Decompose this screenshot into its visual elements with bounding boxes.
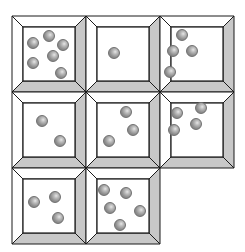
ball-icon xyxy=(27,37,39,49)
ball-icon xyxy=(190,118,202,130)
ball-icon xyxy=(108,47,120,59)
ball-icon xyxy=(103,135,115,147)
bevel-frame xyxy=(12,92,86,168)
ball-icon xyxy=(134,205,146,217)
ball-icon xyxy=(104,202,116,214)
box-r1-c1 xyxy=(86,92,160,168)
bevel-frame xyxy=(86,168,160,244)
ball-icon xyxy=(52,212,64,224)
ball-icon xyxy=(195,102,207,114)
ball-icon xyxy=(168,124,180,136)
ball-icon xyxy=(57,39,69,51)
ball-icon xyxy=(49,191,61,203)
bevel-frame xyxy=(12,168,86,244)
ball-icon xyxy=(186,45,198,57)
ball-icon xyxy=(43,30,55,42)
box-r2-c1 xyxy=(86,168,160,244)
ball-icon xyxy=(98,184,110,196)
ball-icon xyxy=(120,187,132,199)
ball-icon xyxy=(54,135,66,147)
ball-icon xyxy=(120,106,132,118)
ball-icon xyxy=(167,45,179,57)
box-r0-c1 xyxy=(86,16,160,92)
box-r0-c0 xyxy=(12,16,86,92)
ball-icon xyxy=(36,115,48,127)
ball-icon xyxy=(27,57,39,69)
ball-icon xyxy=(171,107,183,119)
box-r2-c0 xyxy=(12,168,86,244)
box-r0-c2 xyxy=(160,16,234,92)
ball-icon xyxy=(176,29,188,41)
ball-icon xyxy=(47,50,59,62)
box-r1-c0 xyxy=(12,92,86,168)
ball-icon xyxy=(55,67,67,79)
bevel-frame xyxy=(86,16,160,92)
box-r1-c2 xyxy=(160,92,234,168)
ball-icon xyxy=(114,219,126,231)
ball-icon xyxy=(127,124,139,136)
bevel-frame xyxy=(86,92,160,168)
ball-icon xyxy=(28,196,40,208)
ball-icon xyxy=(164,66,176,78)
